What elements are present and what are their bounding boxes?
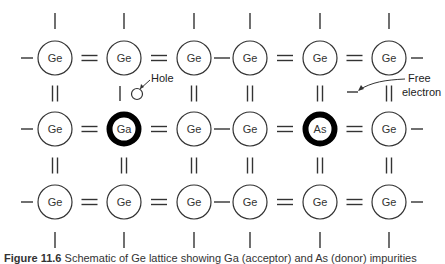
free-electron-arrow [359, 79, 405, 90]
free-electron-label-line2: electron [402, 86, 441, 98]
atom-ge: Ge [233, 185, 267, 219]
atom-ge: Ge [372, 185, 406, 219]
atom-symbol: Ge [382, 52, 397, 64]
atom-ge: Ge [107, 41, 141, 75]
atom-symbol: Ge [243, 196, 258, 208]
annotations-layer: Hole Free electron [132, 72, 442, 100]
atom-ge: Ge [177, 185, 211, 219]
atom-symbol: Ge [48, 196, 63, 208]
atom-ge: Ge [303, 185, 337, 219]
figure-caption-text: Schematic of Ge lattice showing Ga (acce… [65, 252, 417, 264]
atom-symbol: Ge [243, 52, 258, 64]
atom-symbol: Ge [313, 196, 328, 208]
atom-symbol: Ge [117, 52, 132, 64]
atom-ge: Ge [38, 41, 72, 75]
atom-ge: Ge [303, 41, 337, 75]
atom-ge: Ge [372, 112, 406, 146]
atom-symbol: Ge [48, 52, 63, 64]
figure-number: Figure 11.6 [4, 252, 61, 264]
atom-symbol: Ge [382, 123, 397, 135]
atom-as: As [306, 115, 335, 144]
hole-icon [132, 89, 143, 100]
atom-ge: Ge [233, 41, 267, 75]
atom-symbol: Ge [313, 52, 328, 64]
atom-symbol: Ge [382, 196, 397, 208]
hole-label: Hole [151, 72, 174, 84]
free-electron-label-line1: Free [408, 72, 431, 84]
atom-ge: Ge [38, 112, 72, 146]
atom-ge: Ge [177, 41, 211, 75]
atom-symbol: As [314, 123, 327, 135]
atom-symbol: Ge [187, 196, 202, 208]
atom-ge: Ge [372, 41, 406, 75]
atom-symbol: Ge [243, 123, 258, 135]
atom-symbol: Ge [187, 52, 202, 64]
atom-ge: Ge [107, 185, 141, 219]
atom-ga: Ga [110, 115, 139, 144]
hole-arrowhead [140, 84, 144, 89]
bonds-layer [21, 13, 423, 248]
atom-symbol: Ge [187, 123, 202, 135]
free-electron-arrowhead [358, 85, 364, 91]
atom-ge: Ge [177, 112, 211, 146]
atoms-layer: GeGeGeGeGeGeGeGaGeGeAsGeGeGeGeGeGeGe [38, 41, 406, 219]
atom-symbol: Ge [48, 123, 63, 135]
figure-caption: Figure 11.6 Schematic of Ge lattice show… [4, 252, 417, 264]
atom-ge: Ge [38, 185, 72, 219]
atom-symbol: Ga [117, 123, 133, 135]
atom-ge: Ge [233, 112, 267, 146]
atom-symbol: Ge [117, 196, 132, 208]
